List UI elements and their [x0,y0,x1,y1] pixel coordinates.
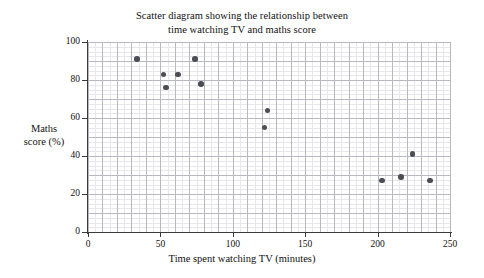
data-point [262,125,268,131]
gridline-minor-vertical [450,42,451,232]
gridline-minor-vertical [117,42,118,232]
gridline-minor-horizontal [88,213,450,214]
data-point [427,178,433,184]
y-tick-label: 40 [54,151,80,161]
gridline-major-vertical [204,42,205,232]
gridline-major-vertical [189,42,190,232]
gridline-minor-vertical [131,42,132,232]
plot-area [88,42,450,232]
x-tick-label: 150 [285,239,325,249]
gridline-minor-vertical [414,42,415,232]
y-tick-mark [82,156,88,157]
gridline-minor-vertical [363,42,364,232]
gridline-major-horizontal [88,137,450,138]
gridline-major-vertical [407,42,408,232]
gridline-major-vertical [146,42,147,232]
gridline-major-vertical [276,42,277,232]
x-tick-mark [88,232,89,237]
gridline-major-horizontal [88,213,450,214]
gridline-minor-vertical [146,42,147,232]
gridline-major-vertical [262,42,263,232]
gridline-minor-horizontal [88,99,450,100]
gridline-minor-horizontal [88,175,450,176]
grid-major [88,42,450,232]
gridline-major-vertical [392,42,393,232]
gridline-minor-vertical [218,42,219,232]
gridline-minor-horizontal [88,90,450,91]
x-axis-title: Time spent watching TV (minutes) [0,253,484,265]
gridline-minor-vertical [168,42,169,232]
gridline-minor-horizontal [88,132,450,133]
gridline-major-vertical [233,42,234,232]
gridline-minor-horizontal [88,118,450,119]
gridline-minor-horizontal [88,147,450,148]
gridline-minor-horizontal [88,161,450,162]
gridline-minor-horizontal [88,94,450,95]
data-point [398,174,404,180]
x-tick-mark [378,232,379,237]
y-tick-label: 0 [54,227,80,237]
gridline-major-vertical [131,42,132,232]
gridline-major-horizontal [88,194,450,195]
gridline-major-horizontal [88,175,450,176]
gridline-minor-vertical [139,42,140,232]
x-tick-label: 200 [358,239,398,249]
x-tick-mark [160,232,161,237]
y-tick-mark [82,118,88,119]
gridline-minor-horizontal [88,66,450,67]
gridline-major-vertical [450,42,451,232]
gridline-minor-horizontal [88,199,450,200]
gridline-minor-vertical [305,42,306,232]
gridline-minor-horizontal [88,109,450,110]
gridline-minor-horizontal [88,218,450,219]
chart-title-line-1: Scatter diagram showing the relationship… [0,9,484,23]
y-tick-label: 80 [54,75,80,85]
gridline-minor-vertical [385,42,386,232]
gridline-minor-horizontal [88,180,450,181]
gridline-major-vertical [305,42,306,232]
y-axis-line [87,40,88,234]
y-tick-mark [82,194,88,195]
gridline-minor-horizontal [88,185,450,186]
gridline-minor-vertical [312,42,313,232]
gridline-minor-horizontal [88,227,450,228]
gridline-minor-vertical [443,42,444,232]
gridline-minor-vertical [298,42,299,232]
gridline-minor-horizontal [88,123,450,124]
data-point [161,72,167,78]
gridline-minor-vertical [392,42,393,232]
gridline-minor-horizontal [88,156,450,157]
gridline-minor-vertical [421,42,422,232]
gridline-minor-horizontal [88,137,450,138]
gridline-major-horizontal [88,61,450,62]
gridline-minor-vertical [211,42,212,232]
scatter-chart-figure: Scatter diagram showing the relationship… [0,0,484,278]
data-point [163,85,169,91]
data-point [265,108,271,114]
gridline-minor-vertical [255,42,256,232]
gridline-minor-horizontal [88,223,450,224]
gridline-minor-vertical [226,42,227,232]
gridline-minor-vertical [378,42,379,232]
gridline-major-vertical [175,42,176,232]
chart-title: Scatter diagram showing the relationship… [0,9,484,36]
gridline-minor-vertical [160,42,161,232]
gridline-minor-vertical [233,42,234,232]
gridline-major-vertical [334,42,335,232]
gridline-minor-vertical [320,42,321,232]
gridline-major-horizontal [88,156,450,157]
gridline-major-vertical [363,42,364,232]
gridline-major-horizontal [88,80,450,81]
y-axis-title: Maths score (%) [8,122,80,148]
gridline-minor-vertical [204,42,205,232]
gridline-major-vertical [378,42,379,232]
gridline-minor-horizontal [88,61,450,62]
gridline-minor-vertical [240,42,241,232]
gridline-minor-vertical [356,42,357,232]
gridline-minor-vertical [341,42,342,232]
data-point [410,151,416,157]
gridline-minor-vertical [334,42,335,232]
gridline-minor-vertical [95,42,96,232]
gridline-major-vertical [349,42,350,232]
gridline-minor-horizontal [88,204,450,205]
